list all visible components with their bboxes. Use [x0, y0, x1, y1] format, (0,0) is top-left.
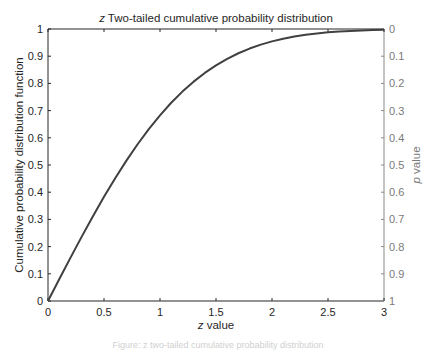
y-right-tick-label: 0.8: [389, 241, 404, 253]
y-right-tick-label: 0.2: [389, 77, 404, 89]
x-tick-label: 1.5: [208, 306, 223, 318]
x-tick-label: 3: [381, 306, 387, 318]
y-right-tick-label: 0.4: [389, 132, 404, 144]
cdf-curve: [48, 30, 384, 301]
chart: z Two-tailed cumulative probability dist…: [0, 0, 436, 350]
x-axis-ticks: 00.511.522.53: [45, 29, 387, 318]
y-tick-label: 0.1: [28, 268, 43, 280]
plot-area: [48, 29, 384, 301]
y-right-tick-label: 1: [389, 295, 395, 307]
x-axis-title: z value: [197, 319, 234, 331]
y-right-tick-label: 0.7: [389, 213, 404, 225]
y-right-tick-label: 0: [389, 23, 395, 35]
y-tick-label: 0.3: [28, 213, 43, 225]
x-tick-label: 0.5: [96, 306, 111, 318]
y-axis-title: Cumulative probability distribution func…: [13, 57, 25, 272]
y-tick-label: 0.4: [28, 186, 43, 198]
y-tick-label: 0.5: [28, 159, 43, 171]
chart-title: z Two-tailed cumulative probability dist…: [98, 12, 333, 24]
x-tick-label: 2: [269, 306, 275, 318]
figure-caption: Figure: z two-tailed cumulative probabil…: [0, 340, 436, 350]
y-right-tick-label: 0.3: [389, 105, 404, 117]
y-tick-label: 0: [37, 295, 43, 307]
y-right-tick-label: 0.5: [389, 159, 404, 171]
y-right-tick-label: 0.1: [389, 50, 404, 62]
x-tick-label: 1: [157, 306, 163, 318]
y-right-tick-label: 0.9: [389, 268, 404, 280]
x-tick-label: 2.5: [320, 306, 335, 318]
y-tick-label: 0.2: [28, 241, 43, 253]
y-tick-label: 0.9: [28, 50, 43, 62]
y-tick-label: 0.7: [28, 105, 43, 117]
y-axis-right-title: p value: [410, 146, 422, 184]
y-tick-label: 0.8: [28, 77, 43, 89]
y-tick-label: 0.6: [28, 132, 43, 144]
y-right-tick-label: 0.6: [389, 186, 404, 198]
y-tick-label: 1: [37, 23, 43, 35]
x-tick-label: 0: [45, 306, 51, 318]
